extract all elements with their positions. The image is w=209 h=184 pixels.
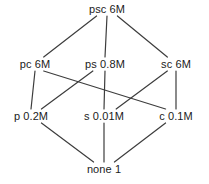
node-label-sc: sc 6M	[161, 58, 191, 70]
edge-psc-sc	[117, 16, 167, 57]
node-label-pc: pc 6M	[20, 58, 50, 70]
edge-psc-pc	[44, 16, 97, 57]
edge-c-none	[114, 123, 165, 162]
edge-psc-ps	[105, 16, 107, 57]
edge-ps-p	[41, 71, 92, 109]
node-label-c: c 0.1M	[159, 110, 193, 122]
node-label-none: none 1	[87, 163, 121, 175]
lattice-diagram: psc 6Mpc 6Mps 0.8Msc 6Mp 0.2Ms 0.01Mc 0.…	[0, 0, 209, 184]
edge-pc-p	[31, 71, 35, 109]
edge-layer	[0, 0, 209, 184]
node-label-p: p 0.2M	[14, 110, 48, 122]
edge-sc-s	[116, 71, 167, 109]
edge-ps-s	[104, 71, 105, 109]
node-label-psc: psc 6M	[89, 3, 125, 15]
node-label-ps: ps 0.8M	[85, 58, 125, 70]
edge-p-none	[41, 123, 93, 162]
node-label-s: s 0.01M	[84, 110, 124, 122]
